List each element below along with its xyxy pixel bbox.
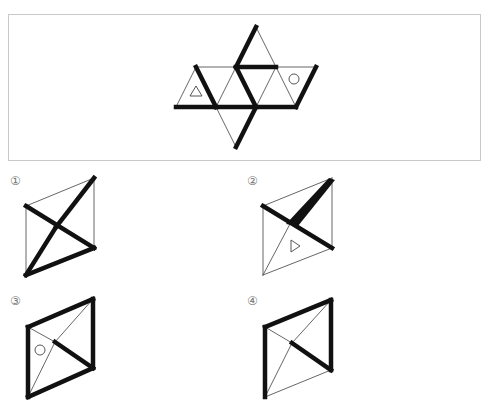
option-thin-edge <box>265 370 331 397</box>
puzzle-stage: ① ② ③ ④ <box>0 0 488 414</box>
option-thin-edge <box>265 327 292 343</box>
option-4-figure[interactable] <box>0 0 488 414</box>
option-thick-edge <box>292 343 331 370</box>
option-thin-edge <box>265 343 292 397</box>
option-thick-edge <box>265 300 331 327</box>
